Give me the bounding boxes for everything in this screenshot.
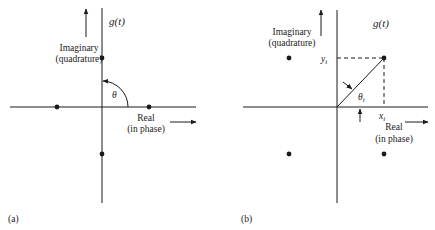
signal-point-right — [147, 105, 152, 110]
real-label-b-1: Real — [385, 122, 403, 132]
angle-label-sub: i — [363, 96, 365, 104]
real-label-a-2: (in phase) — [127, 124, 165, 135]
panel-a: g(t) Imaginary (quadrature) θ Real (in p… — [8, 8, 196, 225]
figure-canvas: g(t) Imaginary (quadrature) θ Real (in p… — [0, 0, 435, 230]
caption-a: (a) — [8, 214, 19, 225]
caption-b: (b) — [241, 214, 252, 225]
x-label-b: xi — [378, 111, 385, 123]
title-a: g(t) — [109, 15, 125, 28]
panel-b: g(t) Imaginary (quadrature) yi θi xi Rea… — [241, 10, 428, 225]
real-label-b-2: (in phase) — [375, 134, 413, 145]
imaginary-label-b-2: (quadrature) — [269, 38, 316, 49]
title-b: g(t) — [373, 17, 389, 30]
angle-label-b: θi — [358, 92, 365, 104]
imaginary-label-b-1: Imaginary — [272, 27, 311, 37]
signal-point-q3 — [287, 152, 292, 157]
signal-point-q4 — [382, 152, 387, 157]
angle-label-a: θ — [112, 90, 117, 100]
imaginary-label-a-1: Imaginary — [59, 43, 98, 53]
signal-point-q2 — [287, 56, 292, 61]
real-label-a-1: Real — [137, 113, 155, 123]
signal-point-left — [55, 105, 60, 110]
angle-pointer-upper — [343, 82, 352, 89]
y-label-sub: i — [325, 58, 327, 66]
signal-point-q1 — [382, 56, 387, 61]
signal-point-bottom — [100, 152, 105, 157]
imaginary-label-a-2: (quadrature) — [56, 54, 103, 65]
y-label-b: yi — [320, 54, 327, 66]
